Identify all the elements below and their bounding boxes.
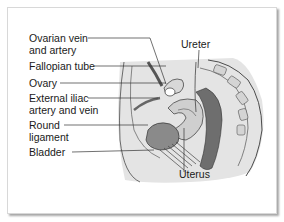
label-round-ligament-line1: Round [29,119,69,131]
label-external-iliac-line2: artery and vein [29,104,98,116]
label-ureter: Ureter [181,38,210,50]
label-bladder: Bladder [29,146,65,158]
label-external-iliac: External iliac artery and vein [29,92,98,116]
label-ovary: Ovary [29,77,57,89]
label-round-ligament-line2: ligament [29,131,69,143]
label-uterus: Uterus [179,168,210,180]
label-ovarian-vein-line2: and artery [29,44,88,56]
label-ovarian-vein: Ovarian vein and artery [29,32,88,56]
label-round-ligament: Round ligament [29,119,69,143]
label-external-iliac-line1: External iliac [29,92,98,104]
ovary-shape [165,88,175,96]
label-fallopian-tube: Fallopian tube [29,60,95,72]
label-ovarian-vein-line1: Ovarian vein [29,32,88,44]
